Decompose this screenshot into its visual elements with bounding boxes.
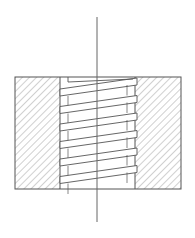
internal-thread [60,77,137,194]
threaded-hole-drawing [0,0,195,238]
section-hatch-left [15,77,60,190]
section-hatch-right [135,77,181,190]
